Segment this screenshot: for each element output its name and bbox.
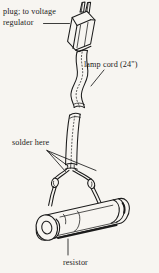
plug-assembly <box>68 2 95 52</box>
leader-line-solder-stem <box>47 151 68 167</box>
resistor-body <box>34 198 130 242</box>
leader-line-solder-left <box>47 151 66 172</box>
leader-line-lamp-cord <box>91 70 104 86</box>
split-wires <box>49 169 102 206</box>
line-drawing-canvas: .ln { fill:none; stroke:#1b1b1b; stroke-… <box>0 0 159 273</box>
figure-technical-drawing: .ln { fill:none; stroke:#1b1b1b; stroke-… <box>0 0 159 273</box>
label-plug-line1: plug; to voltage <box>3 7 56 17</box>
label-lamp-cord: lamp cord (24") <box>84 60 138 70</box>
lamp-cord-upper <box>71 50 88 107</box>
plug-body <box>68 11 95 50</box>
label-solder-here: solder here <box>12 138 49 148</box>
label-plug-line2: regulator <box>3 18 33 28</box>
label-resistor: resistor <box>63 258 88 268</box>
